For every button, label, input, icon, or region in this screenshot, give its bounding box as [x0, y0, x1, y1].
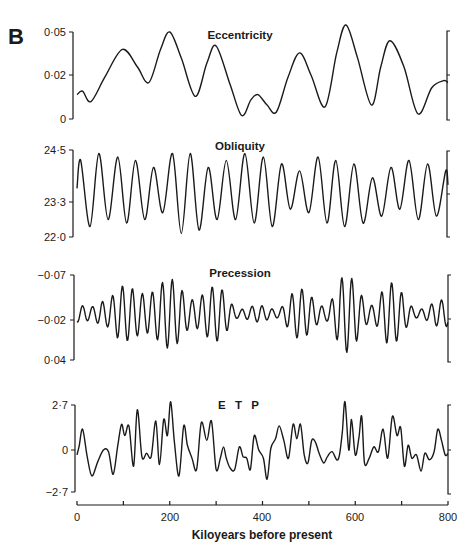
- precession-curve: [77, 278, 448, 353]
- eccentricity-ytick-mid: 0·02: [44, 69, 66, 81]
- x-axis: 0 200 400 600 800 Kiloyears before prese…: [74, 501, 457, 542]
- xtick-600: 600: [346, 511, 364, 523]
- obliquity-ytick-bottom: 22·0: [44, 231, 66, 243]
- etp-curve: [77, 402, 448, 480]
- precession-right-bracket: [448, 275, 451, 362]
- xtick-0: 0: [74, 511, 80, 523]
- eccentricity-panel: Eccentricity 0·05 0·02 0: [44, 25, 450, 125]
- etp-ytick-top: 2·7: [52, 399, 68, 411]
- xtick-200: 200: [161, 511, 179, 523]
- precession-ytick-mid: −0·02: [38, 314, 66, 326]
- eccentricity-title: Eccentricity: [207, 29, 273, 41]
- obliquity-ytick-mid: 23·3: [44, 196, 66, 208]
- etp-panel: E T P 2·7 0 −2·7: [46, 399, 451, 498]
- obliquity-y-axis: 24·5 23·3 22·0: [44, 144, 73, 243]
- xtick-800: 800: [439, 511, 457, 523]
- etp-y-axis: 2·7 0 −2·7: [46, 399, 75, 498]
- precession-ytick-bottom: 0·04: [44, 354, 66, 366]
- eccentricity-y-axis: 0·05 0·02 0: [44, 26, 73, 125]
- etp-title: E T P: [218, 399, 262, 411]
- precession-panel: Precession −0·07 −0·02 0·04: [38, 267, 451, 366]
- xtick-400: 400: [253, 511, 271, 523]
- orbital-parameters-figure: B Eccentricity 0·05 0·02 0 Obliquity 24·…: [0, 0, 474, 556]
- obliquity-right-bracket: [447, 151, 450, 237]
- eccentricity-ytick-bottom: 0: [60, 113, 66, 125]
- eccentricity-right-bracket: [447, 31, 450, 120]
- etp-right-bracket: [448, 405, 451, 494]
- obliquity-panel: Obliquity 24·5 23·3 22·0: [44, 140, 450, 243]
- etp-ytick-bottom: −2·7: [46, 486, 68, 498]
- obliquity-curve: [77, 153, 448, 233]
- precession-y-axis: −0·07 −0·02 0·04: [38, 269, 74, 366]
- precession-ytick-top: −0·07: [38, 269, 66, 281]
- obliquity-ytick-top: 24·5: [44, 144, 66, 156]
- x-axis-label: Kiloyears before present: [192, 528, 333, 542]
- obliquity-title: Obliquity: [215, 140, 265, 152]
- eccentricity-ytick-top: 0·05: [44, 26, 66, 38]
- precession-title: Precession: [209, 267, 270, 279]
- panel-letter: B: [8, 24, 24, 49]
- etp-ytick-mid: 0: [62, 444, 68, 456]
